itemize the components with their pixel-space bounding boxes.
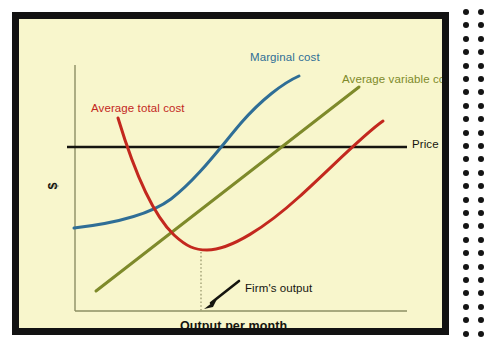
binder-dot (478, 290, 484, 296)
x-axis-label: Output per month (180, 319, 287, 328)
series-label-average-total-cost: Average total cost (91, 102, 185, 114)
binder-dot (478, 63, 484, 69)
binder-dot (478, 143, 484, 149)
binder-dot (463, 22, 469, 28)
binder-dot (463, 130, 469, 136)
binder-dot (463, 317, 469, 323)
binder-dot (478, 223, 484, 229)
binder-dot (478, 156, 484, 162)
binder-dot (463, 264, 469, 270)
binder-dot (478, 277, 484, 283)
average-total-cost-curve (118, 118, 383, 250)
y-axis-label: $ (46, 182, 60, 189)
binder-dot-strip (452, 0, 489, 351)
binder-dot (478, 89, 484, 95)
binder-dot (478, 317, 484, 323)
binder-dot (463, 143, 469, 149)
binder-dot (478, 9, 484, 15)
binder-dot (478, 22, 484, 28)
series-label-price: Price (412, 138, 439, 150)
binder-dot (478, 130, 484, 136)
binder-dot (478, 264, 484, 270)
binder-dot (463, 170, 469, 176)
binder-dot (478, 49, 484, 55)
binder-dot (478, 304, 484, 310)
binder-dot (478, 331, 484, 337)
binder-dot (463, 49, 469, 55)
binder-dot (463, 9, 469, 15)
marginal-cost-curve (74, 76, 299, 228)
binder-dot (478, 116, 484, 122)
binder-dot (463, 76, 469, 82)
binder-dot (478, 250, 484, 256)
binder-dot (463, 183, 469, 189)
binder-dot (463, 116, 469, 122)
figure-canvas: Marginal cost Average variable costs Ave… (19, 19, 442, 328)
cost-curves-chart (19, 19, 442, 328)
binder-dot (478, 76, 484, 82)
annotation-firms-output: Firm's output (245, 282, 312, 294)
binder-dot (478, 210, 484, 216)
picture-frame: Marginal cost Average variable costs Ave… (12, 12, 449, 335)
binder-dot (463, 197, 469, 203)
series-label-average-variable-costs: Average variable costs (342, 73, 442, 85)
binder-dot (478, 183, 484, 189)
binder-dot (463, 156, 469, 162)
average-variable-costs-curve (96, 87, 359, 291)
binder-dot (478, 237, 484, 243)
binder-dot (478, 103, 484, 109)
binder-dot (463, 250, 469, 256)
binder-dot (463, 331, 469, 337)
binder-dot (463, 223, 469, 229)
series-label-marginal-cost: Marginal cost (250, 51, 320, 63)
binder-dot (463, 277, 469, 283)
firms-output-arrow (204, 281, 239, 309)
binder-dot (478, 36, 484, 42)
binder-dot (463, 89, 469, 95)
binder-dot (463, 63, 469, 69)
binder-dot (463, 103, 469, 109)
binder-dot (478, 197, 484, 203)
binder-dot (463, 304, 469, 310)
screenshot-root: Marginal cost Average variable costs Ave… (0, 0, 489, 351)
binder-dot (478, 170, 484, 176)
binder-dot (463, 290, 469, 296)
binder-dot (463, 210, 469, 216)
binder-dot (463, 36, 469, 42)
binder-dot (463, 237, 469, 243)
